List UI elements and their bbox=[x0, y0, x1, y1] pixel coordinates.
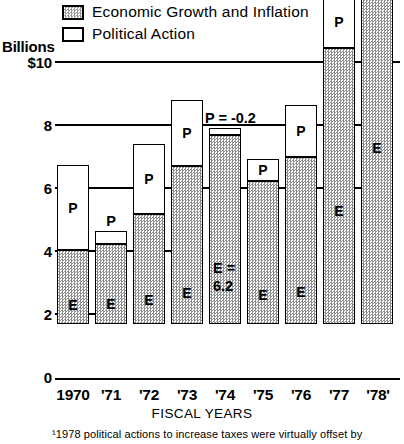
bar-78-economic-label: E bbox=[362, 140, 392, 156]
bar-71-economic-label: E bbox=[96, 296, 126, 312]
bar-74-economic-annotation-line1: E = bbox=[213, 261, 235, 276]
y-tick-10: $10 bbox=[2, 54, 52, 71]
bar-72-political: P bbox=[133, 144, 165, 214]
bar-73-political: P bbox=[171, 100, 203, 166]
bar-1970: E P bbox=[57, 165, 89, 324]
y-tick-4: 4 bbox=[2, 243, 52, 260]
bar-1970-political-label: P bbox=[58, 200, 88, 216]
bar-74-political bbox=[209, 128, 241, 135]
bar-74-economic-annotation-line2: 6.2 bbox=[213, 279, 233, 294]
x-tick-78: '78' bbox=[355, 386, 401, 404]
y-tick-8: 8 bbox=[2, 117, 52, 134]
bar-74-political-annotation: P = -0.2 bbox=[205, 111, 256, 126]
bar-71-political-label: P bbox=[95, 214, 127, 229]
y-tick-0: 0 bbox=[2, 369, 52, 386]
bar-72-political-label: P bbox=[134, 171, 164, 187]
chart-footnote: ¹1978 political actions to increase taxe… bbox=[52, 428, 362, 440]
bar-77-political-label: P bbox=[324, 14, 354, 30]
bar-71-political bbox=[95, 231, 127, 244]
bar-76-economic-label: E bbox=[286, 284, 316, 300]
bar-76-political-label: P bbox=[286, 123, 316, 139]
bar-76-political: P bbox=[285, 105, 317, 157]
bar-73-economic: E bbox=[171, 166, 203, 324]
bar-75-economic-label: E bbox=[248, 287, 278, 303]
bar-76: E P bbox=[285, 105, 317, 324]
bar-76-economic: E bbox=[285, 157, 317, 324]
y-tick-6: 6 bbox=[2, 180, 52, 197]
bar-72: E P bbox=[133, 144, 165, 324]
bar-77-economic-label: E bbox=[324, 203, 354, 219]
bar-73: E P bbox=[171, 100, 203, 324]
bar-72-economic: E bbox=[133, 214, 165, 324]
bar-78: E bbox=[361, 0, 393, 324]
bar-1970-economic: E bbox=[57, 250, 89, 324]
bar-71: E P bbox=[95, 231, 127, 324]
bar-77-political: P bbox=[323, 0, 355, 48]
bar-1970-political: P bbox=[57, 165, 89, 250]
bar-71-economic: E bbox=[95, 244, 127, 324]
bar-77: E P bbox=[323, 0, 355, 324]
bar-75-political-label: P bbox=[248, 162, 278, 178]
bar-77-economic: E bbox=[323, 48, 355, 324]
bar-72-economic-label: E bbox=[134, 292, 164, 308]
bar-75: E P bbox=[247, 159, 279, 324]
bar-75-economic: E bbox=[247, 181, 279, 324]
bar-73-political-label: P bbox=[172, 125, 202, 141]
bar-chart: Economic Growth and Inflation Political … bbox=[0, 0, 404, 444]
bar-74: P = -0.2 E = 6.2 bbox=[209, 128, 241, 324]
bar-74-economic bbox=[209, 135, 241, 324]
y-tick-2: 2 bbox=[2, 306, 52, 323]
plot-area: $10 8 6 4 2 0 E P E P E bbox=[0, 0, 404, 390]
bar-78-economic: E bbox=[361, 0, 393, 324]
bar-1970-economic-label: E bbox=[58, 297, 88, 313]
x-axis-title: FISCAL YEARS bbox=[0, 406, 404, 421]
x-axis-baseline bbox=[55, 378, 400, 380]
bar-73-economic-label: E bbox=[172, 285, 202, 301]
bar-75-political: P bbox=[247, 159, 279, 181]
